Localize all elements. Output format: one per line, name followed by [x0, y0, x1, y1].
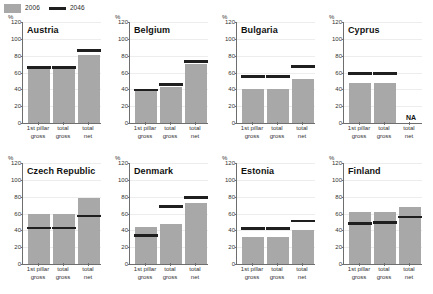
- y-tick-label: 80: [228, 53, 235, 59]
- na-label: NA: [399, 114, 423, 121]
- x-tick-label-line2: net: [287, 133, 317, 141]
- bar-group-1st-pillar-gross: [28, 22, 50, 123]
- y-tick-mark: [342, 264, 344, 265]
- bar-group-1st-pillar-gross: [28, 163, 50, 264]
- y-tick-label: 60: [228, 211, 235, 217]
- y-tick-label: 40: [121, 86, 128, 92]
- bar-2006: [135, 91, 157, 123]
- panel-czech-republic: %020406080100120Czech Republic1st pillar…: [0, 154, 107, 294]
- bars-group: [344, 163, 422, 264]
- y-tick-label: 120: [225, 160, 235, 166]
- y-tick-label: 100: [332, 177, 342, 183]
- panel-title: Czech Republic: [27, 167, 95, 176]
- y-tick-label: 40: [228, 227, 235, 233]
- bar-group-total-gross: [374, 22, 396, 123]
- x-tick-label-line2: net: [180, 133, 210, 141]
- bar-2006: [78, 198, 100, 264]
- y-tick-label: 120: [118, 19, 128, 25]
- marker-2046: [52, 66, 76, 69]
- y-tick-label: 120: [332, 19, 342, 25]
- y-tick-label: 120: [332, 160, 342, 166]
- plot-area: 020406080100120: [236, 22, 315, 124]
- panel-title: Finland: [348, 167, 381, 176]
- bar-2006: [185, 64, 207, 123]
- y-tick-label: 20: [121, 103, 128, 109]
- bar-group-total-net: [78, 22, 100, 123]
- marker-2046: [134, 234, 158, 237]
- plot-area: 020406080100120: [22, 163, 101, 265]
- y-tick-label: 60: [121, 211, 128, 217]
- bar-group-1st-pillar-gross: [349, 22, 371, 123]
- x-tick-label-line2: net: [73, 274, 103, 282]
- bar-2006: [292, 79, 314, 123]
- bar-2006: [53, 69, 75, 123]
- y-tick-label: 80: [14, 53, 21, 59]
- y-tick-mark: [235, 123, 237, 124]
- y-tick-mark: [21, 264, 23, 265]
- x-tick-label: totalnet: [394, 125, 424, 140]
- y-tick-label: 60: [228, 70, 235, 76]
- y-tick-label: 60: [14, 211, 21, 217]
- panel-title: Bulgaria: [241, 26, 278, 35]
- x-tick-label-line2: net: [180, 274, 210, 282]
- plot-area: 020406080100120: [129, 22, 208, 124]
- y-tick-label: 20: [228, 103, 235, 109]
- marker-2046: [241, 75, 265, 78]
- bar-2006: [78, 55, 100, 123]
- panel-estonia: %020406080100120Estonia1st pillargrossto…: [214, 154, 321, 294]
- marker-2046: [373, 72, 397, 75]
- bar-2006: [28, 69, 50, 123]
- y-tick-label: 80: [335, 53, 342, 59]
- bar-2006: [135, 227, 157, 264]
- y-tick-label: 40: [121, 227, 128, 233]
- legend-item-2006: 2006: [4, 4, 40, 13]
- marker-2046: [241, 227, 265, 230]
- bar-group-1st-pillar-gross: [349, 163, 371, 264]
- bar-2006: [53, 214, 75, 264]
- bar-group-total-gross: [53, 22, 75, 123]
- bars-group: [237, 163, 315, 264]
- x-tick-label: totalnet: [394, 266, 424, 281]
- x-tick-label-line2: net: [73, 133, 103, 141]
- y-tick-label: 20: [14, 103, 21, 109]
- y-tick-label: 80: [121, 194, 128, 200]
- bar-2006: [292, 230, 314, 265]
- x-tick-label: totalnet: [180, 125, 210, 140]
- y-tick-mark: [21, 123, 23, 124]
- x-tick-label: totalnet: [180, 266, 210, 281]
- y-tick-mark: [128, 264, 130, 265]
- legend-item-2046: 2046: [49, 5, 85, 12]
- marker-2046: [27, 66, 51, 69]
- bars-group: [23, 163, 101, 264]
- bar-group-total-gross: [160, 22, 182, 123]
- y-tick-label: 80: [14, 194, 21, 200]
- y-tick-label: 120: [225, 19, 235, 25]
- y-tick-label: 80: [335, 194, 342, 200]
- y-tick-label: 20: [335, 244, 342, 250]
- bars-group: [130, 22, 208, 123]
- x-tick-label-line1: total: [394, 125, 424, 133]
- bar-group-total-net: [292, 22, 314, 123]
- bar-2006: [185, 203, 207, 264]
- bar-group-total-gross: [53, 163, 75, 264]
- y-tick-label: 100: [332, 36, 342, 42]
- bar-group-total-gross: [267, 22, 289, 123]
- bar-group-1st-pillar-gross: [242, 163, 264, 264]
- plot-area: 020406080100120: [236, 163, 315, 265]
- x-tick-label: totalnet: [287, 266, 317, 281]
- panel-title: Denmark: [134, 167, 173, 176]
- x-tick-label-line1: total: [73, 125, 103, 133]
- pension-replacement-rate-chart: 2006 2046 %020406080100120Austria1st pil…: [0, 0, 433, 294]
- bar-group-total-gross: [267, 163, 289, 264]
- marker-2046: [266, 75, 290, 78]
- x-axis-labels: 1st pillargrosstotalgrosstotalnet: [22, 266, 100, 290]
- y-tick-label: 40: [228, 86, 235, 92]
- plot-area: 020406080100120NA: [343, 22, 422, 124]
- bar-2006: [349, 83, 371, 123]
- panel-belgium: %020406080100120Belgium1st pillargrossto…: [107, 13, 214, 153]
- marker-2046: [52, 227, 76, 230]
- marker-2046: [348, 222, 372, 225]
- marker-2046: [373, 221, 397, 224]
- bar-group-total-net: [292, 163, 314, 264]
- y-tick-label: 120: [118, 160, 128, 166]
